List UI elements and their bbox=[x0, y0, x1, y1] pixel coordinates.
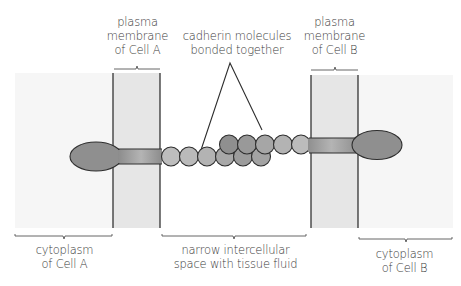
label-line: bonded together bbox=[172, 43, 302, 57]
label-line: narrow intercellular bbox=[168, 243, 303, 257]
label-cadherin-molecules: cadherin molecules bonded together bbox=[172, 29, 302, 57]
label-line: plasma bbox=[100, 15, 175, 29]
bracket-membrane-b bbox=[311, 67, 358, 70]
label-line: cadherin molecules bbox=[172, 29, 302, 43]
bracket-cytoplasm-a bbox=[15, 234, 112, 239]
label-plasma-membrane-cell-b: plasma membrane of Cell B bbox=[297, 15, 372, 57]
label-plasma-membrane-cell-a: plasma membrane of Cell A bbox=[100, 15, 175, 57]
label-line: space with tissue fluid bbox=[168, 257, 303, 271]
label-line: of Cell B bbox=[297, 43, 372, 57]
label-intercellular-space: narrow intercellular space with tissue f… bbox=[168, 243, 303, 271]
label-line: of Cell A bbox=[100, 43, 175, 57]
cadherin-diagram: plasma membrane of Cell A cadherin molec… bbox=[0, 0, 461, 286]
label-line: membrane bbox=[297, 29, 372, 43]
bracket-intercellular-space bbox=[162, 234, 306, 239]
label-line: of Cell A bbox=[22, 257, 107, 271]
label-line: cytoplasm bbox=[362, 247, 447, 261]
bracket-cytoplasm-b bbox=[359, 237, 452, 242]
label-line: membrane bbox=[100, 29, 175, 43]
label-line: cytoplasm bbox=[22, 243, 107, 257]
label-cytoplasm-cell-b: cytoplasm of Cell B bbox=[362, 247, 447, 275]
label-line: of Cell B bbox=[362, 261, 447, 275]
bracket-membrane-a bbox=[114, 66, 160, 69]
label-line: plasma bbox=[297, 15, 372, 29]
label-cytoplasm-cell-a: cytoplasm of Cell A bbox=[22, 243, 107, 271]
